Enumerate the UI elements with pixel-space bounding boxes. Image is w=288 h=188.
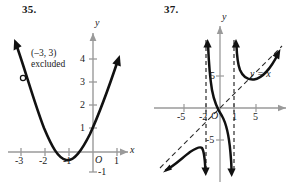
- y-tick-label-2: 2: [80, 99, 85, 110]
- excluded-annotation-coords: (–3, 3): [31, 48, 65, 59]
- y-axis-arrowhead: [90, 33, 97, 41]
- x-tick-label-neg3: -3: [15, 155, 23, 166]
- y-tick-label-neg5: -5: [206, 134, 214, 145]
- excluded-open-point: [20, 75, 25, 80]
- branch-lower-left-down-arrowhead: [201, 167, 209, 176]
- x-tick-label-neg1: -1: [63, 155, 71, 166]
- y-tick-label-neg1: -1: [98, 166, 106, 177]
- figure-37: 37.: [144, 0, 288, 188]
- y-axis-label: y: [222, 11, 226, 22]
- textbook-figure-page: 35.: [0, 0, 288, 188]
- branch-middle-down-arrowhead: [227, 168, 235, 177]
- branch-lower-left-arrowhead: [163, 164, 172, 172]
- y-tick-label-3: 3: [80, 76, 85, 87]
- y-axis-label: y: [95, 17, 99, 28]
- y-tick-label-1: 1: [80, 122, 85, 133]
- x-tick-label-1: 1: [114, 155, 119, 166]
- y-tick-label-5: 5: [210, 70, 215, 81]
- x-axis-arrowhead: [120, 149, 128, 156]
- x-tick-label-neg2: -2: [39, 155, 47, 166]
- origin-label: O: [211, 110, 218, 121]
- origin-label: O: [95, 154, 102, 165]
- branch-upper-right-up-arrowhead: [232, 39, 240, 48]
- branch-middle-up-arrowhead: [203, 39, 211, 48]
- x-tick-label-neg2: -2: [199, 111, 207, 122]
- x-tick-label-5: 5: [253, 111, 258, 122]
- y-tick-label-4: 4: [80, 53, 85, 64]
- y-axis-arrowhead: [217, 26, 223, 34]
- excluded-annotation-text: excluded: [31, 59, 65, 70]
- reference-line-y-equals-x: [160, 46, 282, 168]
- parabola-right-arrowhead: [112, 55, 120, 67]
- x-tick-label-1: 1: [232, 111, 237, 122]
- y-equals-x-label: y = x: [250, 68, 271, 79]
- x-tick-label-neg5: -5: [177, 111, 185, 122]
- figure-37-plot: [144, 0, 288, 188]
- figure-35: 35.: [0, 0, 144, 188]
- x-axis-arrowhead: [278, 105, 286, 111]
- excluded-annotation: (–3, 3) excluded: [31, 48, 65, 70]
- x-axis-label: x: [130, 144, 134, 155]
- branch-lower-left: [166, 147, 206, 172]
